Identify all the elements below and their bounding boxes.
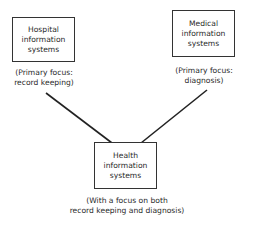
caption-line: diagnosis) bbox=[162, 76, 246, 86]
hospital-label-line: information bbox=[22, 35, 66, 45]
caption-line: record keeping and diagnosis) bbox=[60, 206, 194, 216]
health-label-line: information bbox=[104, 161, 148, 171]
medical-node: Medical information systems bbox=[172, 10, 235, 57]
hospital-node: Hospital information systems bbox=[12, 17, 75, 62]
hospital-caption: (Primary focus: record keeping) bbox=[2, 68, 86, 88]
caption-line: (Primary focus: bbox=[2, 68, 86, 78]
hospital-label-line: systems bbox=[22, 45, 66, 55]
health-label-line: systems bbox=[104, 171, 148, 181]
medical-label-line: information bbox=[182, 29, 226, 39]
caption-line: (With a focus on both bbox=[60, 196, 194, 206]
medical-label-line: systems bbox=[182, 39, 226, 49]
health-node: Health information systems bbox=[94, 142, 157, 189]
medical-caption: (Primary focus: diagnosis) bbox=[162, 66, 246, 86]
edge-medical-to-health bbox=[141, 90, 207, 143]
health-label-line: Health bbox=[104, 151, 148, 161]
health-caption: (With a focus on both record keeping and… bbox=[60, 196, 194, 216]
caption-line: (Primary focus: bbox=[162, 66, 246, 76]
caption-line: record keeping) bbox=[2, 78, 86, 88]
edge-hospital-to-health bbox=[46, 93, 112, 143]
hospital-label-line: Hospital bbox=[22, 25, 66, 35]
medical-label-line: Medical bbox=[182, 19, 226, 29]
